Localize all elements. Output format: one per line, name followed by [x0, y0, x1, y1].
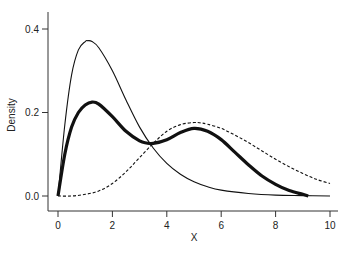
- series-layer: [58, 41, 330, 197]
- x-tick-label: 10: [324, 220, 336, 231]
- y-tick-label: 0.4: [25, 24, 39, 35]
- x-axis-ticks: 0246810: [55, 211, 336, 231]
- x-tick-label: 2: [110, 220, 116, 231]
- y-tick-label: 0.0: [25, 191, 39, 202]
- x-tick-label: 6: [218, 220, 224, 231]
- x-tick-label: 8: [273, 220, 279, 231]
- x-axis-label: X: [191, 232, 198, 243]
- x-tick-label: 4: [164, 220, 170, 231]
- density-chart: 0.00.20.4 0246810 X Density: [0, 0, 349, 256]
- x-tick-label: 0: [55, 220, 61, 231]
- y-tick-label: 0.2: [25, 107, 39, 118]
- series-line-dashed: [58, 122, 330, 196]
- y-axis-ticks: 0.00.20.4: [25, 24, 48, 202]
- series-line-thick-solid: [58, 102, 308, 196]
- series-line-thin-solid: [58, 41, 330, 196]
- y-axis-label: Density: [6, 98, 17, 131]
